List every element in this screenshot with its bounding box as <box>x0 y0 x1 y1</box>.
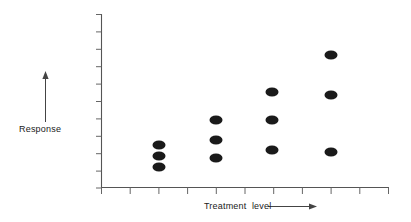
plot-canvas <box>0 0 411 222</box>
y-axis-label: Response <box>19 124 61 134</box>
scatter-plot-figure: Response Treatment level <box>0 0 411 222</box>
data-point <box>210 115 223 124</box>
data-point <box>325 147 338 156</box>
data-point <box>266 115 279 124</box>
response-arrow-head <box>42 71 48 79</box>
treatment-direction-arrow <box>268 203 317 209</box>
data-point <box>210 153 223 162</box>
y-axis-ticks <box>96 15 102 189</box>
response-direction-arrow <box>42 71 48 122</box>
data-point <box>266 145 279 154</box>
data-point <box>153 140 166 149</box>
data-point-group <box>153 50 338 171</box>
data-point <box>266 87 279 96</box>
x-axis-ticks <box>102 188 389 195</box>
data-point <box>210 135 223 144</box>
data-point <box>153 151 166 160</box>
x-axis <box>101 188 389 195</box>
treatment-arrow-head <box>309 203 317 209</box>
data-point <box>153 162 166 171</box>
data-point <box>325 50 338 59</box>
x-axis-label: Treatment level <box>204 201 271 211</box>
data-point <box>325 90 338 99</box>
y-axis <box>96 14 102 188</box>
